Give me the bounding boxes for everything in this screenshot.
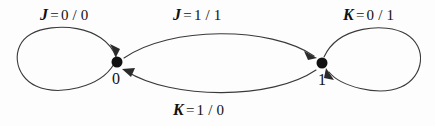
self-loop-state0-path xyxy=(17,27,116,90)
state-label-1: 1 xyxy=(318,72,326,88)
transition-input-symbol: K xyxy=(173,101,185,118)
transition-input-symbol: J xyxy=(40,6,49,23)
transition-equals-sign: = xyxy=(182,7,194,23)
self-loop-state1-path xyxy=(324,28,421,91)
state-diagram: J=0 / 0 J=1 / 1 K=0 / 1 K=1 / 0 0 1 xyxy=(0,0,435,126)
transition-0-to-1-arrowhead xyxy=(304,51,317,60)
state-label-0: 0 xyxy=(112,71,120,87)
transition-1-to-0-path xyxy=(126,70,316,93)
state-node-1 xyxy=(317,58,328,69)
transition-label-self-loop-state1: K=0 / 1 xyxy=(343,7,394,23)
transition-io-values: 0 / 0 xyxy=(61,7,89,23)
state-node-0 xyxy=(112,57,123,68)
transition-label-self-loop-state0: J=0 / 0 xyxy=(40,7,89,23)
transition-0-to-1-path xyxy=(124,34,314,58)
transition-input-symbol: J xyxy=(173,6,182,23)
transition-label-1-to-0: K=1 / 0 xyxy=(173,102,224,118)
transition-equals-sign: = xyxy=(185,102,197,118)
transition-io-values: 0 / 1 xyxy=(367,7,395,23)
transition-io-values: 1 / 0 xyxy=(197,102,225,118)
transition-label-0-to-1: J=1 / 1 xyxy=(173,7,222,23)
transition-1-to-0-arrowhead xyxy=(122,68,135,77)
transition-equals-sign: = xyxy=(49,7,61,23)
transition-equals-sign: = xyxy=(355,7,367,23)
transition-input-symbol: K xyxy=(343,6,355,23)
transition-io-values: 1 / 1 xyxy=(194,7,222,23)
